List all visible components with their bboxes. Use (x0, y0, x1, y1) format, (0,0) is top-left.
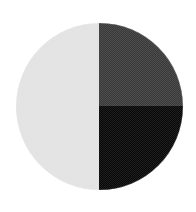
disc-quadrant-top-right (99, 23, 183, 107)
disc-quadrant-bottom-left (16, 106, 100, 190)
disc-quadrant-bottom-right (99, 106, 183, 190)
figure-canvas (0, 0, 196, 212)
quadrant-disc (16, 23, 183, 190)
disc-quadrant-top-left (16, 23, 100, 107)
